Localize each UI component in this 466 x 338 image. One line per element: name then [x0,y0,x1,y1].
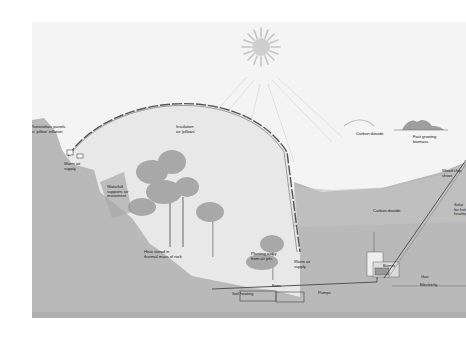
label-photovoltaic-panels: Photovoltaic panels for 'pillow' inflati… [32,125,65,134]
label-heat-stored: Heat stored in thermal mass of rock [144,250,182,259]
biodome-energy-diagram: Photovoltaic panels for 'pillow' inflati… [32,22,466,318]
label-carbon-dioxide-sky: Carbon dioxide [356,132,383,137]
label-warm-air-supply-left: Warm air supply [64,162,80,171]
label-warm-air-supply-right: Warm air supply [294,260,310,269]
diagram-illustration [32,22,466,318]
label-fans: Fans [272,284,281,289]
label-wood-chip-shoot: Wood chip shoot [442,169,461,178]
label-gas: Gas [421,275,429,280]
label-insulation-pillows: Insulation air 'pillows' [176,125,195,134]
label-carbon-dioxide-ground: Carbon dioxide [373,209,400,214]
label-fast-growing-biomass: Fast growing biomass [413,135,436,144]
label-waterfall: Waterfall supports air movement [107,185,128,199]
label-pumps: Pumps [318,291,331,296]
label-burner: Burner [383,264,395,269]
label-solar-hot-heating: Solar for hot heating [454,203,466,217]
label-soil-heating: Soil heating [232,292,253,297]
label-electricity: Electricity [420,283,437,288]
label-planting-away: Planting away from air jets [251,252,276,261]
sun-icon [242,28,280,66]
